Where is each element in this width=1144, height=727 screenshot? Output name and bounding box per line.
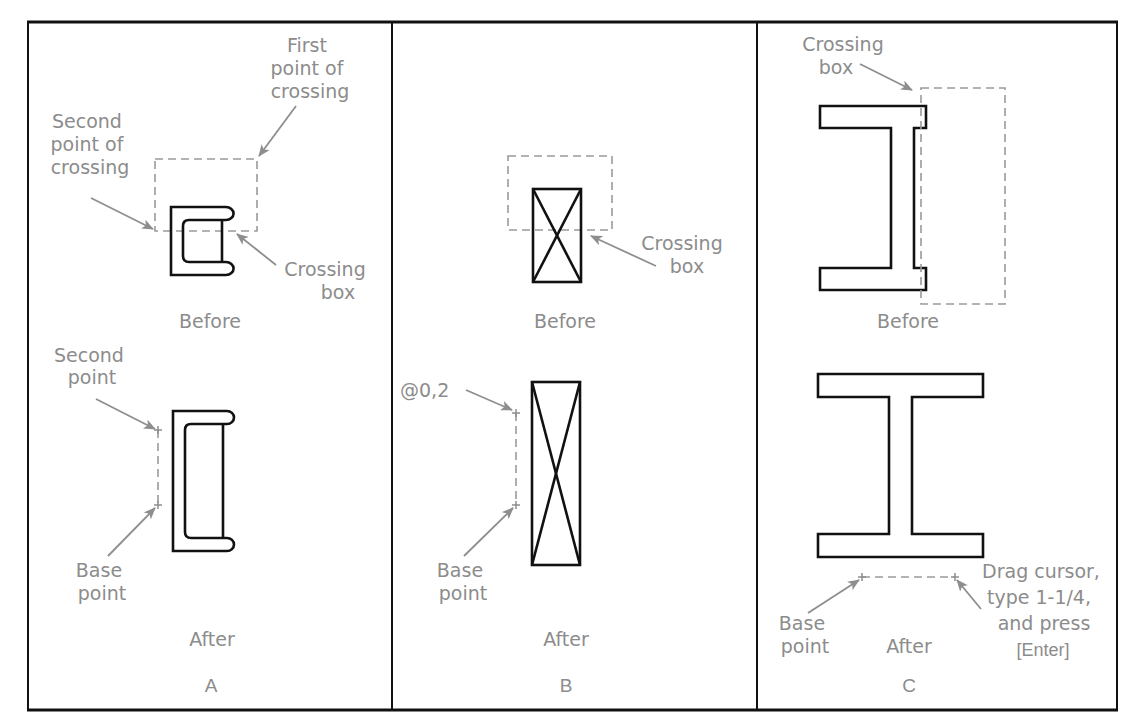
instruction-label: Drag cursor, type 1-1/4, and press <box>982 560 1106 634</box>
stretch-command-figure: First point of crossing Second point of … <box>0 0 1144 727</box>
coordinate-label: @0,2 <box>400 379 449 401</box>
crossing-box-label: Crossing box <box>284 258 372 303</box>
base-point-label: Base point <box>779 612 831 657</box>
crossing-window <box>508 156 612 230</box>
x-box-before <box>533 189 581 282</box>
x-box-after <box>532 382 580 565</box>
panel-label: C <box>902 675 916 696</box>
after-caption: After <box>543 628 589 650</box>
before-caption: Before <box>534 310 596 332</box>
enter-key-label: [Enter] <box>1016 640 1069 660</box>
base-point-label: Base point <box>437 559 489 604</box>
i-beam-after <box>818 374 983 557</box>
i-beam-before <box>820 106 926 290</box>
channel-shape-before <box>171 207 234 275</box>
panel-label: A <box>205 675 218 696</box>
channel-shape-after <box>173 411 234 551</box>
second-point-label: Second point <box>54 344 130 388</box>
crossing-window <box>921 88 1005 304</box>
panel-c: Crossing box Before Base point After Dra… <box>779 33 1106 696</box>
panel-b: Crossing box Before @0,2 Base point Afte… <box>400 156 729 696</box>
drag-cursor-arrow <box>957 580 981 609</box>
crossing-box-arrow <box>237 234 276 265</box>
base-point-arrow <box>808 580 859 613</box>
coordinate-arrow <box>466 390 512 410</box>
figure-frame <box>27 22 1118 710</box>
crossing-box-label: Crossing box <box>641 232 729 277</box>
after-caption: After <box>189 628 235 650</box>
second-point-of-crossing-label: Second point of crossing <box>51 110 130 178</box>
first-point-label: First point of crossing <box>271 34 350 102</box>
base-point-label: Base point <box>76 559 128 604</box>
before-caption: Before <box>179 310 241 332</box>
base-point-arrow <box>108 508 155 556</box>
first-point-arrow <box>259 106 296 156</box>
crossing-box-arrow <box>860 64 912 90</box>
crossing-box-label: Crossing box <box>802 33 890 78</box>
second-point-arrow <box>91 198 153 229</box>
second-point-after-arrow <box>96 399 155 429</box>
panel-label: B <box>560 675 573 696</box>
panel-a: First point of crossing Second point of … <box>51 34 372 696</box>
before-caption: Before <box>877 310 939 332</box>
base-point-arrow <box>464 508 513 556</box>
after-caption: After <box>886 635 932 657</box>
